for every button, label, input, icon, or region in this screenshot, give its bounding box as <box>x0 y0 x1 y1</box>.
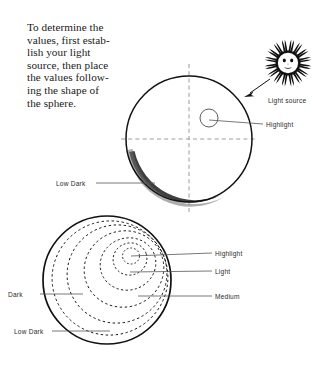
figure-page: To determine the values, first estab- li… <box>0 0 329 366</box>
label-medium-bottom: Medium <box>215 293 240 300</box>
leader-light-bottom <box>130 271 212 272</box>
label-low-dark-top: Low Dark <box>56 180 85 187</box>
lower-sphere-diagram <box>37 206 212 350</box>
value-contour-low-dark <box>37 206 183 350</box>
label-highlight-top: Highlight <box>266 121 293 128</box>
value-contour-light <box>93 231 162 298</box>
light-direction-arrow-icon <box>244 79 270 97</box>
label-dark-bottom: Dark <box>8 291 23 298</box>
value-contour-medium <box>74 220 174 317</box>
label-low-dark-bottom: Low Dark <box>14 328 43 335</box>
value-contour-highlight <box>109 239 151 280</box>
lower-sphere-outline <box>43 216 171 344</box>
highlight-circle <box>200 109 218 127</box>
sun-icon <box>265 40 312 87</box>
upper-sphere-diagram <box>96 64 263 213</box>
value-contour-dark <box>54 212 179 336</box>
label-light-bottom: Light <box>215 268 230 275</box>
label-highlight-bottom: Highlight <box>215 250 242 257</box>
leader-highlight-bottom <box>131 253 212 256</box>
sun-face-icon <box>283 59 293 69</box>
sphere-shading-figure <box>0 0 329 366</box>
label-light-source: Light source <box>268 97 306 104</box>
